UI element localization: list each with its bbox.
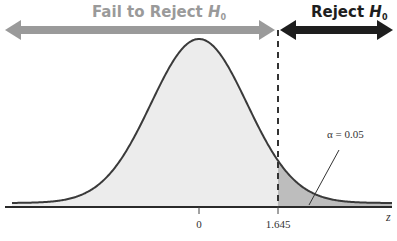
fail-region-area xyxy=(12,39,278,207)
normal-distribution-chart: Fail to Reject H0 Reject H0 α = 0.05 0 1… xyxy=(0,0,397,241)
reject-arrow xyxy=(280,20,393,40)
axis-label-z: z xyxy=(385,210,391,224)
fail-region-label: Fail to Reject H0 xyxy=(92,3,227,22)
tick-label-critical: 1.645 xyxy=(266,218,291,230)
reject-region-label: Reject H0 xyxy=(311,3,388,22)
tick-label-zero: 0 xyxy=(196,218,202,230)
fail-to-reject-arrow xyxy=(5,20,275,40)
alpha-annotation: α = 0.05 xyxy=(327,128,364,140)
